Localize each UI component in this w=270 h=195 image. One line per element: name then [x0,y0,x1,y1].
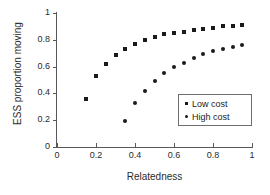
x-axis-line [56,147,253,148]
data-point-low-cost [84,97,88,101]
data-point-low-cost [221,24,225,28]
x-tick-label: 0.2 [81,150,111,161]
x-tick-label: 0.8 [198,150,228,161]
circle-marker-icon [182,115,191,118]
y-tick-label: 0.6 [22,62,50,71]
data-point-low-cost [211,26,215,30]
data-point-low-cost [94,74,98,78]
data-point-high-cost [182,61,186,65]
data-point-high-cost [153,79,157,83]
chart-legend: Low cost High cost [178,94,252,126]
y-tick-label: 0 [22,142,50,151]
x-tick-label: 0.4 [120,150,150,161]
y-axis-title: ESS proportion moving [12,9,23,139]
chart-container: ESS proportion moving Relatedness 00.20.… [0,0,270,195]
data-point-low-cost [172,31,176,35]
x-tick-label: 0 [42,150,72,161]
data-point-low-cost [231,24,235,28]
legend-label-high-cost: High cost [192,112,230,122]
x-tick-label: 1 [237,150,267,161]
legend-label-low-cost: Low cost [192,99,228,109]
data-point-high-cost [192,56,196,60]
y-tick-mark [53,147,57,148]
y-tick-label: 0.4 [22,88,50,97]
y-tick-label: 1 [22,8,50,17]
y-tick-label: 0.2 [22,115,50,124]
y-tick-label: 0.8 [22,35,50,44]
legend-entry-low-cost: Low cost [182,97,248,110]
data-point-high-cost [143,89,147,93]
data-point-low-cost [104,62,108,66]
data-point-low-cost [182,30,186,34]
data-point-low-cost [143,38,147,42]
legend-entry-high-cost: High cost [182,110,248,123]
data-point-low-cost [114,53,118,57]
x-tick-label: 0.6 [159,150,189,161]
data-point-high-cost [231,45,235,49]
x-tick-mark [252,143,253,147]
data-point-low-cost [192,28,196,32]
data-point-low-cost [240,23,244,27]
data-point-low-cost [133,42,137,46]
data-point-low-cost [201,27,205,31]
x-axis-title: Relatedness [57,171,252,182]
square-marker-icon [182,102,191,105]
data-point-low-cost [162,32,166,36]
data-point-low-cost [123,47,127,51]
data-point-low-cost [153,35,157,39]
data-point-high-cost [221,47,225,51]
